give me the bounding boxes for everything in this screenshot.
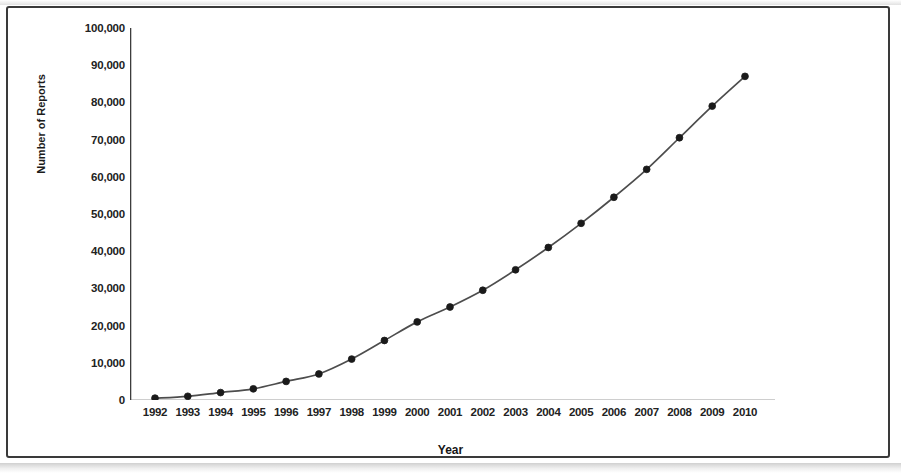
x-axis-tick-label: 1998 [339,406,363,418]
y-axis-tick-label: 30,000 [91,282,125,294]
x-axis-tick-label: 1999 [372,406,396,418]
y-axis-tick-label: 60,000 [91,171,125,183]
y-axis-tick-label: 80,000 [91,96,125,108]
x-axis-title: Year [0,443,901,457]
x-axis-tick-label: 2008 [667,406,691,418]
x-axis-tick-label: 2006 [602,406,626,418]
plot-area [130,28,880,400]
scan-artifact-bottom [0,463,901,473]
x-axis-tick-labels: 1992199319941995199619971998199920002001… [130,406,880,426]
x-axis-tick-label: 2001 [438,406,462,418]
line-chart-svg [130,28,880,400]
x-axis-tick-label: 2000 [405,406,429,418]
data-series-line [155,76,745,398]
x-axis-tick-label: 2010 [733,406,757,418]
x-axis-tick-label: 2005 [569,406,593,418]
y-axis-tick-label: 20,000 [91,320,125,332]
y-axis-tick-label: 40,000 [91,245,125,257]
x-axis-tick-label: 2007 [634,406,658,418]
y-axis-tick-label: 70,000 [91,134,125,146]
x-axis-tick-label: 1994 [208,406,232,418]
x-axis-tick-label: 1995 [241,406,265,418]
x-axis-tick-label: 1992 [143,406,167,418]
y-axis-title: Number of Reports [35,39,47,209]
x-axis-tick-label: 2002 [471,406,495,418]
scan-artifact-top [0,0,901,5]
chart-axes [130,28,775,400]
x-axis-tick-label: 2009 [700,406,724,418]
y-axis-tick-label: 10,000 [91,357,125,369]
x-axis-tick-label: 1996 [274,406,298,418]
y-axis-tick-label: 100,000 [85,22,125,34]
x-axis-tick-label: 1993 [176,406,200,418]
data-point-markers [152,73,749,400]
y-axis-tick-label: 0 [119,394,125,406]
chart-figure: 100,00090,00080,00070,00060,00050,00040,… [0,0,901,473]
x-axis-tick-label: 2003 [503,406,527,418]
y-axis-tick-label: 90,000 [91,59,125,71]
y-axis-tick-label: 50,000 [91,208,125,220]
x-axis-tick-label: 1997 [307,406,331,418]
x-axis-tick-label: 2004 [536,406,560,418]
